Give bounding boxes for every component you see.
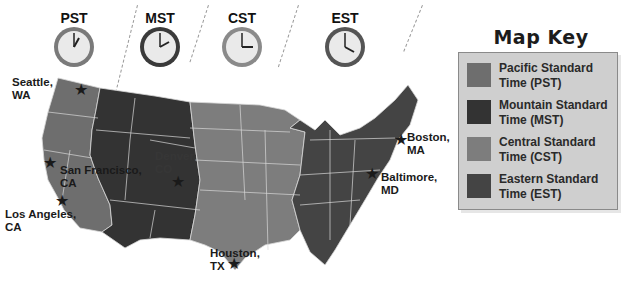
city-label-houston: Houston,TX bbox=[210, 247, 260, 273]
city-label-san-francisco: San Francisco,CA bbox=[60, 164, 142, 190]
clock-icon-est bbox=[324, 26, 366, 68]
city-label-denver: Denver,CO bbox=[155, 150, 197, 176]
city-label-los-angeles: Los Angeles,CA bbox=[5, 208, 76, 234]
legend-swatch-cst bbox=[467, 137, 491, 161]
clock-label-cst: CST bbox=[212, 10, 272, 26]
city-label-seattle: Seattle,WA bbox=[12, 76, 53, 102]
city-label-baltimore: Baltimore,MD bbox=[381, 171, 437, 197]
clock-icon-pst bbox=[53, 26, 95, 68]
zone-cst bbox=[190, 102, 305, 270]
legend-item-pst: Pacific StandardTime (PST) bbox=[467, 61, 613, 95]
clock-label-est: EST bbox=[315, 10, 375, 26]
legend-swatch-pst bbox=[467, 63, 491, 87]
map-key-title: Map Key bbox=[466, 26, 616, 48]
legend-swatch-est bbox=[467, 174, 491, 198]
legend-item-est: Eastern StandardTime (EST) bbox=[467, 172, 613, 206]
star-icon-san-francisco: ★ bbox=[43, 155, 57, 171]
map-key-legend: Pacific StandardTime (PST) Mountain Stan… bbox=[458, 52, 618, 210]
star-icon-denver: ★ bbox=[171, 174, 185, 190]
star-icon-baltimore: ★ bbox=[365, 166, 379, 182]
star-icon-los-angeles: ★ bbox=[55, 193, 69, 209]
star-icon-boston: ★ bbox=[394, 132, 408, 148]
clock-icon-mst bbox=[139, 26, 181, 68]
star-icon-seattle: ★ bbox=[74, 82, 88, 98]
legend-item-mst: Mountain StandardTime (MST) bbox=[467, 98, 613, 132]
legend-item-cst: Central StandardTime (CST) bbox=[467, 135, 613, 169]
clock-icon-cst bbox=[221, 26, 263, 68]
clock-label-pst: PST bbox=[44, 10, 104, 26]
clock-label-mst: MST bbox=[130, 10, 190, 26]
legend-swatch-mst bbox=[467, 100, 491, 124]
city-label-boston: Boston,MA bbox=[407, 131, 450, 157]
